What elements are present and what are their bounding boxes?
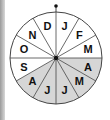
segment-label: D bbox=[43, 20, 51, 32]
pointer-dot-icon bbox=[54, 4, 58, 8]
segment-label: J bbox=[62, 84, 68, 96]
segment-label: A bbox=[84, 61, 92, 73]
segment-label: J bbox=[44, 84, 50, 96]
segment-label: M bbox=[75, 75, 84, 87]
month-wheel: JFMAMJJASOND bbox=[0, 0, 110, 120]
segment-label: F bbox=[76, 29, 83, 41]
wheel-hub bbox=[54, 56, 58, 60]
segment-label: O bbox=[20, 43, 29, 55]
segment-label: S bbox=[20, 61, 27, 73]
segment-label: M bbox=[83, 43, 92, 55]
segment-label: A bbox=[29, 75, 37, 87]
segment-label: J bbox=[62, 20, 68, 32]
segment-label: N bbox=[29, 29, 37, 41]
